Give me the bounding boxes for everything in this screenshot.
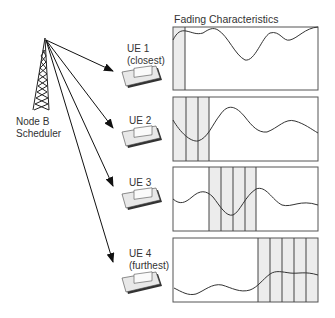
ue4-label: UE 4 [129,248,151,259]
scheduler-label: Scheduler [16,128,61,139]
fading-panel-ue3 [173,167,318,231]
transmission-arrows [46,40,113,262]
data-card-icon [122,126,162,148]
data-card-icon [122,188,162,210]
cell-tower-icon [33,38,49,110]
ue1-sublabel: (closest) [127,55,165,66]
ue3-label: UE 3 [129,177,151,188]
ue2-label: UE 2 [129,115,151,126]
fading-panel-ue1 [173,27,318,90]
ue4-sublabel: (furthest) [129,260,169,271]
fading-panel-ue4 [173,238,318,302]
node-b-label: Node B [16,116,49,127]
diagram-canvas: Fading Characteristics Node B Scheduler … [0,0,335,318]
data-card-icon [122,272,162,294]
ue1-label: UE 1 [127,43,149,54]
diagram-title: Fading Characteristics [174,14,278,25]
fading-panel-ue2 [173,97,318,161]
data-card-icon [122,66,162,88]
